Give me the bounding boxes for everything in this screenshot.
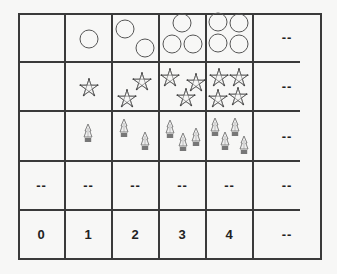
star-outline-icon [80,68,249,107]
potted-tree-icon [84,118,248,154]
circle-outline-icon [80,13,248,57]
icon-layer [0,0,337,274]
counting-grid: -- -- -- -- -- -- -- -- -- 0 1 2 3 4 -- [0,0,337,274]
